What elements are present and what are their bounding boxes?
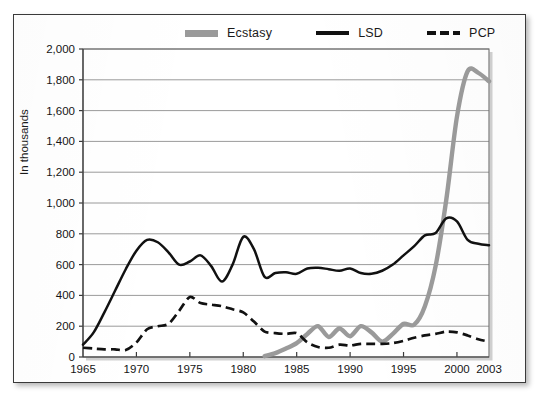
x-tick-label-1980: 1980 [230, 363, 256, 375]
y-tick-label-2000: 2,000 [46, 43, 75, 55]
line-chart: 02004006008001,0001,2001,4001,6001,8002,… [0, 0, 541, 398]
x-tick-label-1975: 1975 [177, 363, 203, 375]
x-tick-label-1985: 1985 [284, 363, 310, 375]
plot-border-shadow [86, 52, 491, 359]
y-tick-label-1800: 1,800 [46, 74, 75, 86]
y-tick-label-1000: 1,000 [46, 197, 75, 209]
x-tick-label-2003: 2003 [476, 363, 502, 375]
series-line-lsd [83, 218, 489, 345]
y-tick-label-400: 400 [56, 289, 75, 301]
y-tick-label-1600: 1,600 [46, 105, 75, 117]
x-tick-label-1995: 1995 [391, 363, 417, 375]
series-line-pcp [83, 297, 489, 351]
x-tick-label-1970: 1970 [124, 363, 150, 375]
y-tick-label-200: 200 [56, 320, 75, 332]
y-tick-label-1400: 1,400 [46, 135, 75, 147]
series-line-ecstasy [265, 68, 489, 356]
x-tick-label-2000: 2000 [444, 363, 470, 375]
x-tick-label-1990: 1990 [337, 363, 363, 375]
figure-root: EcstasyLSDPCP In thousands 0200400600800… [0, 0, 541, 398]
y-tick-label-600: 600 [56, 259, 75, 271]
y-tick-label-0: 0 [69, 351, 75, 363]
y-tick-label-1200: 1,200 [46, 166, 75, 178]
y-tick-label-800: 800 [56, 228, 75, 240]
x-tick-label-1965: 1965 [70, 363, 96, 375]
